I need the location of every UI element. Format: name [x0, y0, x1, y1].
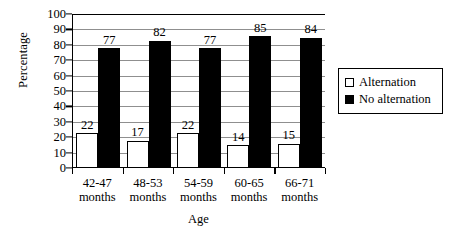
x-axis-tick-label-line: 60-65	[224, 176, 274, 190]
bar-value-label: 77	[103, 34, 116, 47]
bar-value-label: 22	[182, 119, 195, 132]
x-axis-tick-label-line: months	[275, 190, 325, 204]
bar-group: 2277	[76, 14, 120, 167]
y-axis-tick-label: 20	[6, 131, 66, 144]
x-axis-tick-label: 48-53months	[123, 176, 173, 204]
x-axis-tick-label: 60-65months	[224, 176, 274, 204]
bar-value-label: 15	[283, 129, 296, 142]
bar-value-label: 85	[254, 22, 267, 35]
x-axis-tick-label-line: 48-53	[123, 176, 173, 190]
bar[interactable]	[76, 133, 98, 167]
y-axis-tick-label: 30	[6, 116, 66, 129]
y-axis-tick-label: 10	[6, 146, 66, 159]
y-axis-tick-label: 70	[6, 54, 66, 67]
legend-label: No alternation	[359, 92, 431, 107]
bar-groups: 22771782227714851584	[73, 14, 325, 167]
plot-area: 22771782227714851584	[72, 14, 325, 168]
y-axis-tick-label: 90	[6, 23, 66, 36]
x-axis-tick-label-line: 42-47	[72, 176, 122, 190]
x-axis-tick-label-line: months	[224, 190, 274, 204]
y-axis-tick-label: 60	[6, 69, 66, 82]
x-axis-tick-label-line: months	[123, 190, 173, 204]
bar[interactable]	[227, 145, 249, 167]
x-axis-tick-mark	[325, 168, 326, 174]
y-axis-tick-labels: 1009080706050403020100	[0, 14, 72, 168]
x-axis-tick-mark	[274, 168, 275, 174]
bar-wrapper: 85	[249, 14, 271, 167]
y-axis-tick-label: 80	[6, 39, 66, 52]
bar-value-label: 14	[232, 131, 245, 144]
bar[interactable]	[199, 48, 221, 167]
y-axis-tick-label: 40	[6, 100, 66, 113]
x-axis-tick-mark	[72, 168, 73, 174]
open-square-swatch-icon	[345, 78, 354, 87]
y-axis-tick-label: 100	[6, 8, 66, 21]
y-axis-tick-label: 50	[6, 85, 66, 98]
x-axis-tick-label-line: months	[72, 190, 122, 204]
y-axis-tick-label: 0	[6, 162, 66, 175]
filled-square-swatch-icon	[345, 95, 354, 104]
x-axis-tick-mark	[123, 168, 124, 174]
bar-group: 1584	[278, 14, 322, 167]
bar-group: 2277	[177, 14, 221, 167]
bar[interactable]	[300, 38, 322, 167]
bar-wrapper: 84	[300, 14, 322, 167]
bar-wrapper: 77	[199, 14, 221, 167]
bar-wrapper: 17	[127, 14, 149, 167]
x-axis-tick-label-line: 66-71	[275, 176, 325, 190]
bar[interactable]	[98, 48, 120, 167]
bar-wrapper: 77	[98, 14, 120, 167]
x-axis-title: Age	[72, 212, 325, 227]
bar[interactable]	[278, 144, 300, 167]
x-axis-tick-label: 42-47months	[72, 176, 122, 204]
bar-wrapper: 22	[76, 14, 98, 167]
bar-group: 1485	[227, 14, 271, 167]
bar-value-label: 84	[305, 23, 318, 36]
bar-group: 1782	[127, 14, 171, 167]
bar-value-label: 77	[204, 34, 217, 47]
bar-value-label: 82	[153, 26, 166, 39]
bar-value-label: 17	[131, 126, 144, 139]
legend-item-alternation: Alternation	[345, 74, 437, 91]
bar-wrapper: 15	[278, 14, 300, 167]
x-axis-tick-label-line: months	[173, 190, 223, 204]
x-axis-tick-mark	[224, 168, 225, 174]
legend-item-no-alternation: No alternation	[345, 91, 437, 108]
bar[interactable]	[249, 36, 271, 167]
x-axis-tick-mark	[173, 168, 174, 174]
bar-wrapper: 14	[227, 14, 249, 167]
x-axis-tick-label: 54-59months	[173, 176, 223, 204]
bar-value-label: 22	[81, 119, 94, 132]
x-axis-tick-label-line: 54-59	[173, 176, 223, 190]
legend-label: Alternation	[359, 75, 416, 90]
x-axis-tick-labels: 42-47months48-53months54-59months60-65mo…	[72, 176, 325, 204]
x-axis-tick-label: 66-71months	[275, 176, 325, 204]
bar[interactable]	[149, 41, 171, 167]
bar[interactable]	[177, 133, 199, 167]
bar[interactable]	[127, 141, 149, 167]
bar-wrapper: 22	[177, 14, 199, 167]
chart-legend: Alternation No alternation	[338, 68, 443, 114]
bar-chart: Percentage 1009080706050403020100 227717…	[0, 0, 456, 242]
x-axis-tick-marks	[72, 168, 325, 175]
bar-wrapper: 82	[149, 14, 171, 167]
